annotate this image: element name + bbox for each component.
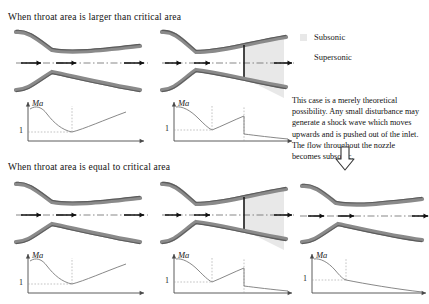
nozzle-panel-row2-col1: Ma 1 <box>14 180 154 300</box>
subsonic-color-swatch <box>300 34 307 41</box>
mach-curve-preshock <box>176 259 244 282</box>
mach-curve-preshock <box>176 107 244 130</box>
mach-axis-label: Ma <box>32 98 43 108</box>
subsonic-shade-region <box>244 38 284 98</box>
mach-y-tick: 1 <box>165 276 169 285</box>
legend-label-subsonic: Subsonic <box>314 33 345 42</box>
mach-curve <box>30 107 126 132</box>
nozzle-upper-wall <box>16 184 140 204</box>
mach-y-tick: 1 <box>303 274 307 283</box>
flow-arrow-group <box>21 212 144 217</box>
nozzle-panel-row1-col2: Ma 1 <box>160 28 300 146</box>
nozzle-diagram-row1-col1 <box>14 28 154 146</box>
mach-plot-row1-col1 <box>26 102 144 143</box>
mach-plot-row2-col3 <box>310 254 426 295</box>
nozzle-diagram-row2-col2 <box>160 180 300 300</box>
legend-label-supersonic: Supersonic <box>314 53 352 62</box>
mach-plot-row1-col2 <box>172 102 292 143</box>
mach-plot-row2-col2 <box>172 254 292 295</box>
supersonic-color-swatch <box>300 54 307 61</box>
down-arrow-icon <box>332 146 358 176</box>
mach-y-tick: 1 <box>165 124 169 133</box>
nozzle-diagram-row1-col2 <box>160 28 300 146</box>
flow-arrow-group <box>21 60 144 65</box>
subsonic-shade-region <box>244 190 284 250</box>
nozzle-diagram-row2-col3 <box>300 180 429 300</box>
section-heading-row1: When throat area is larger than critical… <box>8 12 181 22</box>
nozzle-upper-wall <box>302 186 422 205</box>
nozzle-upper-wall <box>16 32 140 52</box>
nozzle-lower-wall <box>16 72 140 90</box>
nozzle-panel-row2-col3: Ma 1 <box>300 180 429 300</box>
explanatory-note: This case is a merely theoretical possib… <box>292 95 424 162</box>
mach-y-tick: 1 <box>19 126 23 135</box>
nozzle-panel-row2-col2: Ma 1 <box>160 180 300 300</box>
mach-curve-postshock <box>244 286 288 291</box>
nozzle-panel-row1-col1: Ma 1 <box>14 28 154 146</box>
nozzle-lower-wall <box>16 224 140 242</box>
nozzle-diagram-row2-col1 <box>14 180 154 300</box>
legend-item-supersonic: Supersonic <box>300 50 352 64</box>
mach-axis-label: Ma <box>32 250 43 260</box>
mach-axis-label: Ma <box>178 98 189 108</box>
mach-axis-label: Ma <box>316 250 327 260</box>
mach-y-tick: 1 <box>19 278 23 287</box>
section-heading-row2: When throat area is equal to critical ar… <box>8 162 170 172</box>
mach-curve <box>314 259 422 292</box>
mach-curve <box>30 259 126 284</box>
mach-plot-row2-col1 <box>26 254 144 295</box>
legend: Subsonic Supersonic <box>300 30 352 70</box>
mach-axis-label: Ma <box>178 250 189 260</box>
mach-curve-postshock <box>244 134 288 139</box>
legend-item-subsonic: Subsonic <box>300 30 352 44</box>
